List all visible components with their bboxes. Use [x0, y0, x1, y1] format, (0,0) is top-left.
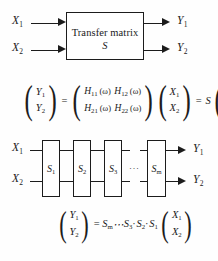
- transfer-matrix-title: Transfer matrix: [67, 27, 143, 39]
- matrix-cell-11: H11 (ω): [84, 83, 111, 100]
- block-output-label-1: Y1: [177, 14, 187, 26]
- block-input-arrow-2: [58, 45, 66, 53]
- input-column-vector: X1 X2: [169, 84, 180, 117]
- input-vec-row-0: X1: [170, 84, 180, 101]
- casc-product-term-3: S2·: [135, 218, 148, 229]
- block-output-label-2: Y2: [177, 41, 187, 53]
- matrix-row-0: H11 (ω) H12 (ω): [84, 83, 141, 100]
- block-output-arrow-1: [162, 18, 170, 26]
- cascade-input-line-2: [30, 181, 42, 182]
- casc-product-term-2: S3·: [124, 218, 135, 229]
- casc-product-term-0: Sm: [102, 218, 113, 229]
- casc-lhs-row-1: Y2: [70, 224, 79, 241]
- equation-equals-2: =: [193, 95, 204, 106]
- block-output-line-2: [144, 50, 164, 51]
- input-vec-row-1: X2: [170, 100, 180, 117]
- transfer-matrix-symbol: S: [67, 40, 143, 52]
- lhs-column-vector: Y1 Y2: [35, 84, 45, 117]
- cascade-stage-m: Sm: [147, 140, 166, 197]
- matrix-row-1: H21 (ω) H22 (ω): [84, 100, 141, 117]
- matrix-cell-22: H22 (ω): [115, 100, 142, 117]
- cascade-output-arrow-2: [178, 177, 186, 185]
- cascade-stage-3: S3: [104, 140, 122, 197]
- block-input-line-2: [31, 50, 60, 51]
- lhs-vec-row-1: Y2: [36, 100, 45, 117]
- cascade-link-top-1: [59, 150, 73, 151]
- block-input-arrow-1: [58, 18, 66, 26]
- transfer-matrix-box: Transfer matrix S: [66, 12, 144, 60]
- transfer-matrix-entries: H11 (ω) H12 (ω) H21 (ω) H22 (ω): [83, 83, 142, 117]
- casc-lhs-row-0: Y1: [70, 207, 79, 224]
- cascade-input-line-1: [30, 150, 42, 151]
- casc-rhs-row-1: X2: [172, 224, 182, 241]
- cascade-input-label-2: X2: [12, 172, 23, 184]
- cascade-stage-3-label: S3: [109, 163, 117, 174]
- block-output-arrow-2: [162, 45, 170, 53]
- cascade-stage-ellipsis: ···: [129, 163, 140, 173]
- equation-equals-1: =: [59, 95, 70, 106]
- cascade-stage-2-label: S2: [78, 163, 86, 174]
- lhs-vec-row-0: Y1: [36, 84, 45, 101]
- cascade-link-bot-2: [90, 181, 104, 182]
- cascade-equation: ( Y1 Y2 ) = Sm ⋯ S3· S2· S1 ( X1 X2 ): [57, 207, 194, 240]
- block-input-label-1: X1: [12, 14, 23, 26]
- casc-equals: =: [91, 218, 102, 229]
- cascade-link-top-3: [121, 150, 130, 151]
- cascade-stage-1: S1: [42, 140, 60, 197]
- cascade-stage-1-label: S1: [47, 163, 55, 174]
- cascade-link-bot-1: [59, 181, 73, 182]
- casc-rhs-column-vector: X1 X2: [171, 207, 182, 240]
- cascade-stage-m-label: Sm: [151, 163, 161, 174]
- casc-product-term-4: S1: [148, 218, 160, 229]
- block-input-line-1: [31, 23, 60, 24]
- casc-lhs-column-vector: Y1 Y2: [69, 207, 79, 240]
- cascade-output-label-1: Y1: [193, 142, 203, 154]
- s-symbol: S: [204, 95, 212, 106]
- cascade-link-top-2: [90, 150, 104, 151]
- cascade-link-bot-3: [121, 181, 130, 182]
- matrix-cell-12: H12 (ω): [114, 83, 141, 100]
- block-output-line-1: [144, 23, 164, 24]
- casc-product-ellipsis: ⋯: [113, 218, 124, 230]
- cascade-input-label-1: X1: [12, 141, 23, 153]
- matrix-equation: ( Y1 Y2 ) = ( H11 (ω) H12 (ω) H21 (ω) H2…: [22, 83, 218, 117]
- matrix-cell-21: H21 (ω): [84, 100, 111, 117]
- figure-root: X1 X2 Transfer matrix S Y1 Y2 (: [0, 0, 218, 261]
- casc-rhs-row-0: X1: [172, 207, 182, 224]
- cascade-output-arrow-1: [178, 146, 186, 154]
- cascade-output-label-2: Y2: [193, 173, 203, 185]
- block-input-label-2: X2: [12, 41, 23, 53]
- cascade-stage-2: S2: [73, 140, 91, 197]
